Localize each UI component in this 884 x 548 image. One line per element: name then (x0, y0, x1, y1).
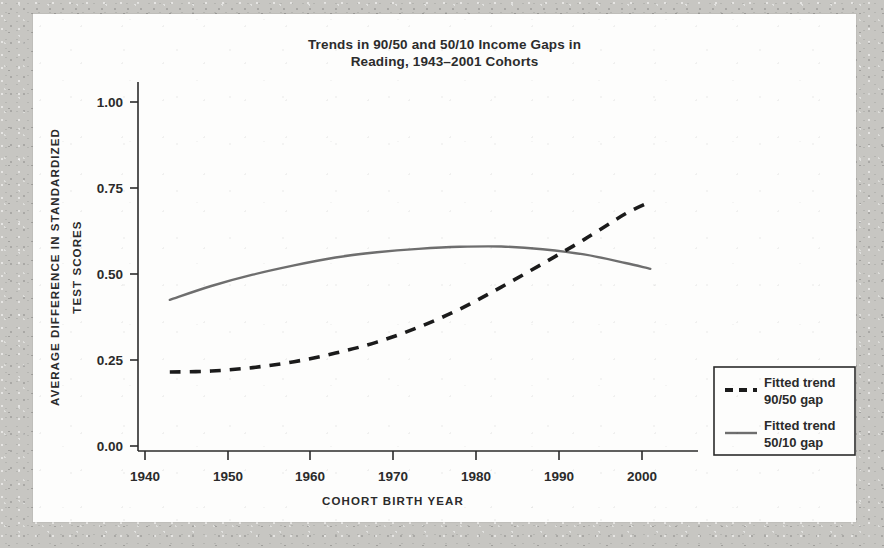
x-tick-label-3: 1970 (378, 469, 408, 484)
y-tick-label-4: 1.00 (97, 95, 123, 110)
y-tick-label-3: 0.75 (97, 181, 124, 196)
x-axis-tick-labels: 1940 1950 1960 1970 1980 1990 2000 (130, 469, 657, 484)
y-axis-ticks (130, 102, 138, 446)
series-line-90-50-gap (170, 202, 651, 372)
x-tick-label-1: 1950 (213, 469, 243, 484)
legend-label-50-10-line-2: 50/10 gap (764, 435, 823, 450)
legend-label-90-50-line-2: 90/50 gap (764, 392, 823, 407)
y-axis-tick-labels: 0.00 0.25 0.50 0.75 1.00 (97, 95, 124, 454)
x-tick-label-2: 1960 (295, 469, 325, 484)
x-tick-label-4: 1980 (461, 469, 491, 484)
legend-label-50-10-line-1: Fitted trend (764, 418, 836, 433)
x-tick-label-5: 1990 (544, 469, 574, 484)
y-axis-title-line-1: AVERAGE DIFFERENCE IN STANDARDIZED (49, 128, 61, 406)
x-axis-title: COHORT BIRTH YEAR (322, 495, 464, 507)
y-tick-label-0: 0.00 (97, 439, 123, 454)
chart-legend[interactable]: Fitted trend 90/50 gap Fitted trend 50/1… (714, 367, 855, 455)
x-tick-label-0: 1940 (130, 469, 160, 484)
x-tick-label-6: 2000 (627, 469, 657, 484)
y-tick-label-1: 0.25 (97, 353, 124, 368)
y-tick-label-2: 0.50 (97, 267, 123, 282)
figure-card: Trends in 90/50 and 50/10 Income Gaps in… (33, 14, 856, 522)
series-line-50-10-gap (170, 246, 651, 299)
x-axis-ticks (145, 451, 642, 460)
legend-label-90-50-line-1: Fitted trend (764, 375, 836, 390)
y-axis-title-line-2: TEST SCORES (71, 220, 83, 313)
line-chart: 0.00 0.25 0.50 0.75 1.00 1940 1950 1960 … (33, 14, 856, 522)
